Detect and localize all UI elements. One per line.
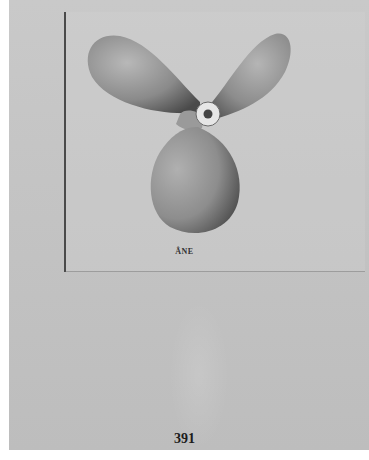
propeller-blade-bottom — [151, 127, 240, 233]
plate-frame-bottom-line — [65, 271, 365, 272]
illustration-caption: ÂNE — [0, 247, 369, 256]
plate-frame-left-line — [64, 12, 66, 272]
page-number: 391 — [0, 431, 369, 447]
propeller-illustration — [70, 22, 300, 247]
propeller-blade-right — [208, 34, 291, 120]
propeller-blade-left — [88, 35, 200, 113]
